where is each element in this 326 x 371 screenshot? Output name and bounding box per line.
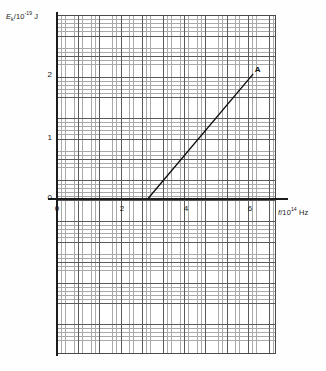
x-axis-line: [48, 198, 288, 200]
graph-screenshot: Ek/10-19 J f/1014 Hz 2 1 0 0 2 4 6 A: [0, 0, 326, 371]
point-a-annotation-label: A: [255, 65, 261, 74]
x-axis-title: f/1014 Hz: [278, 206, 308, 217]
x-tick-label-2: 2: [115, 204, 129, 213]
y-tick-label-2: 2: [38, 70, 52, 79]
y-tick-label-1: 1: [38, 133, 52, 142]
x-tick-label-6: 6: [243, 204, 257, 213]
x-tick-label-4: 4: [179, 204, 193, 213]
graph-paper-grid: [57, 15, 276, 354]
y-axis-title-unit-pre: /10: [14, 12, 25, 21]
y-tick-label-0: 0: [38, 193, 52, 202]
x-axis-title-unit-pre: /10: [280, 208, 291, 217]
y-axis-title: Ek/10-19 J: [6, 10, 38, 22]
x-tick-label-0: 0: [50, 204, 64, 213]
y-axis-title-unit-post: J: [32, 12, 38, 21]
y-axis-line: [56, 12, 58, 356]
x-axis-title-unit-post: Hz: [297, 208, 309, 217]
